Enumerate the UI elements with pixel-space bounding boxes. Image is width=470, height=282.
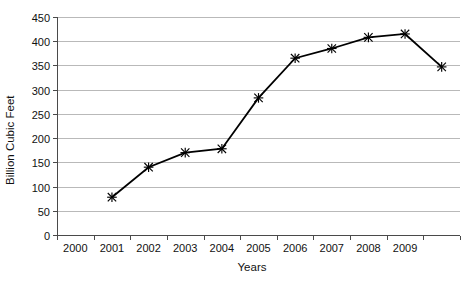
- x-axis-group: 2000200120022003200420052006200720082009: [57, 236, 461, 254]
- x-tick-label: 2002: [136, 242, 160, 254]
- x-tick-label: 2005: [246, 242, 270, 254]
- x-tick-label: 2006: [283, 242, 307, 254]
- data-point-marker: [290, 53, 300, 63]
- data-point-marker: [144, 162, 154, 172]
- y-tick-label: 400: [32, 36, 50, 48]
- y-tick-label: 50: [38, 206, 50, 218]
- line-chart: 050100150200250300350400450 200020012002…: [0, 0, 470, 282]
- data-point-marker: [180, 148, 190, 158]
- series-group: [107, 29, 446, 202]
- y-tick-marks: [53, 18, 57, 236]
- data-point-marker: [400, 29, 410, 39]
- data-point-marker: [327, 44, 337, 54]
- y-tick-label: 200: [32, 133, 50, 145]
- y-tick-label: 300: [32, 85, 50, 97]
- x-tick-label: 2007: [320, 242, 344, 254]
- y-tick-label: 150: [32, 157, 50, 169]
- data-point-marker: [437, 62, 447, 72]
- y-tick-label: 100: [32, 182, 50, 194]
- data-point-marker: [217, 144, 227, 154]
- y-axis-title: Billion Cubic Feet: [4, 95, 16, 185]
- x-tick-label: 2008: [356, 242, 380, 254]
- x-tick-label: 2003: [173, 242, 197, 254]
- x-tick-label: 2001: [100, 242, 124, 254]
- data-point-marker: [107, 192, 117, 202]
- y-axis-group: 050100150200250300350400450: [32, 12, 58, 242]
- x-axis-title: Years: [238, 261, 267, 273]
- x-tick-label: 2009: [393, 242, 417, 254]
- gridlines-group: [57, 18, 460, 236]
- x-tick-labels: 2000200120022003200420052006200720082009: [63, 242, 417, 254]
- data-point-marker: [254, 93, 264, 103]
- y-tick-label: 450: [32, 12, 50, 24]
- series-markers: [107, 29, 446, 202]
- x-tick-label: 2004: [210, 242, 234, 254]
- chart-canvas: 050100150200250300350400450 200020012002…: [0, 0, 470, 282]
- data-point-marker: [364, 33, 374, 43]
- y-tick-label: 350: [32, 60, 50, 72]
- y-tick-labels: 050100150200250300350400450: [32, 12, 50, 242]
- x-tick-marks: [58, 236, 461, 240]
- x-tick-label: 2000: [63, 242, 87, 254]
- y-tick-label: 0: [44, 230, 50, 242]
- y-tick-label: 250: [32, 109, 50, 121]
- series-line-billion-cubic-feet: [112, 34, 442, 197]
